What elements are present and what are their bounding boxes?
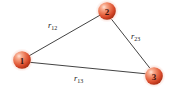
edge-label-r23: r23 bbox=[131, 31, 140, 42]
node-3-label: 3 bbox=[152, 72, 157, 82]
edge-1-3 bbox=[31, 62, 145, 73]
edge-1-2 bbox=[30, 15, 100, 55]
node-3[interactable]: 3 bbox=[143, 65, 166, 88]
triangle-diagram: 1 2 3 r12 r23 r13 bbox=[0, 0, 171, 91]
r12-sub: 12 bbox=[51, 25, 57, 31]
node-2-label: 2 bbox=[105, 7, 110, 17]
edge-label-group: r12 r23 r13 bbox=[48, 20, 140, 84]
node-2[interactable]: 2 bbox=[96, 0, 119, 23]
edge-2-3 bbox=[112, 20, 150, 68]
r13-sub: 13 bbox=[77, 78, 83, 84]
edge-label-r12: r12 bbox=[48, 20, 57, 31]
r23-sub: 23 bbox=[134, 36, 140, 42]
node-1-label: 1 bbox=[20, 56, 25, 66]
node-1[interactable]: 1 bbox=[11, 49, 34, 72]
edge-label-r13: r13 bbox=[74, 73, 83, 84]
diagram-canvas: 1 2 3 r12 r23 r13 bbox=[0, 0, 171, 91]
